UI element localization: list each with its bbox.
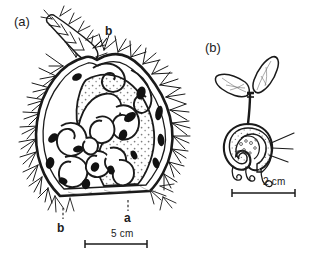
panel-label-a: (a) xyxy=(14,15,30,28)
scale-bar-label-2cm: 2 cm xyxy=(263,177,285,187)
panel-a-fruit-section xyxy=(19,6,190,248)
cotyledon-right xyxy=(253,57,278,93)
scale-bar-label-5cm: 5 cm xyxy=(111,229,133,239)
panel-label-b: (b) xyxy=(205,41,221,54)
pointer-label-a: a xyxy=(124,212,131,224)
figure-illustration xyxy=(0,0,313,260)
scale-bar-5cm xyxy=(85,240,147,248)
pointer-label-b-bottom: b xyxy=(57,222,64,234)
seedling-stem xyxy=(247,93,254,124)
botanical-figure: (a) (b) b b a 5 cm 2 cm xyxy=(0,0,313,260)
scale-bar-2cm xyxy=(232,189,295,197)
pointer-label-b-top: b xyxy=(105,25,112,37)
cotyledon-left xyxy=(215,74,249,96)
seed-lateral-spines xyxy=(269,133,294,162)
